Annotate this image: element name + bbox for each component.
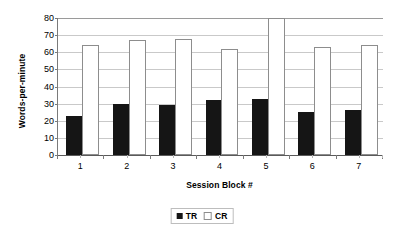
bar-group [58,18,104,155]
bar-tr-3 [159,105,176,155]
x-axis-tickmark [150,155,196,160]
legend-item-tr[interactable]: TR [177,211,197,221]
bar-group [337,18,383,155]
y-axis-tick-label: 50 [28,64,54,74]
y-axis-tick-label: 70 [28,30,54,40]
x-axis-tickmark [336,155,382,160]
x-axis-tickmark [243,155,289,160]
filled-square-icon [177,213,183,219]
y-axis-tick-label: 40 [28,82,54,92]
y-axis-tick-label: 80 [28,13,54,23]
bar-cr-4 [221,49,238,155]
bar-cr-2 [129,40,146,155]
y-axis-title: Words-per-minute [17,26,27,156]
legend-item-cr[interactable]: CR [204,211,227,221]
bar-tr-7 [345,110,362,155]
chart-legend: TRCR [171,208,234,224]
bar-cr-7 [361,45,378,155]
bar-tr-2 [113,104,130,155]
bar-cr-6 [314,47,331,155]
legend-label: CR [215,211,227,221]
x-axis-tickmark [57,155,103,160]
bar-tr-1 [66,116,83,155]
x-axis-label-7: 7 [336,161,382,171]
y-axis-tick-label: 60 [28,47,54,57]
x-axis-label-3: 3 [150,161,196,171]
bar-tr-5 [252,99,269,156]
x-axis-tickmarks [57,155,382,160]
y-axis-tick-label: 30 [28,99,54,109]
bar-cr-3 [175,39,192,155]
bar-tr-4 [206,100,223,155]
x-axis-label-1: 1 [57,161,103,171]
x-axis-label-4: 4 [196,161,242,171]
x-axis-label-6: 6 [289,161,335,171]
legend-label: TR [186,211,197,221]
bar-cr-1 [82,45,99,155]
x-axis-tickmark [103,155,149,160]
bar-group [151,18,197,155]
y-axis-tick-label: 0 [28,150,54,160]
bar-groups [58,18,383,155]
bar-cr-5 [268,18,285,155]
bar-group [197,18,243,155]
bar-tr-6 [298,112,315,155]
hollow-square-icon [204,212,212,220]
bar-group [290,18,336,155]
bar-group [104,18,150,155]
y-axis-tick-label: 10 [28,133,54,143]
x-axis-tick-labels: 1234567 [57,161,382,171]
plot-area: 01020304050607080 [57,18,383,155]
bar-group [244,18,290,155]
x-axis-label-2: 2 [103,161,149,171]
x-axis-tickmark [289,155,335,160]
x-axis-label-5: 5 [243,161,289,171]
y-axis-tick-label: 20 [28,116,54,126]
x-axis-title: Session Block # [57,180,382,190]
bar-chart: Words-per-minute 01020304050607080 12345… [0,0,404,236]
x-axis-tickmark [196,155,242,160]
